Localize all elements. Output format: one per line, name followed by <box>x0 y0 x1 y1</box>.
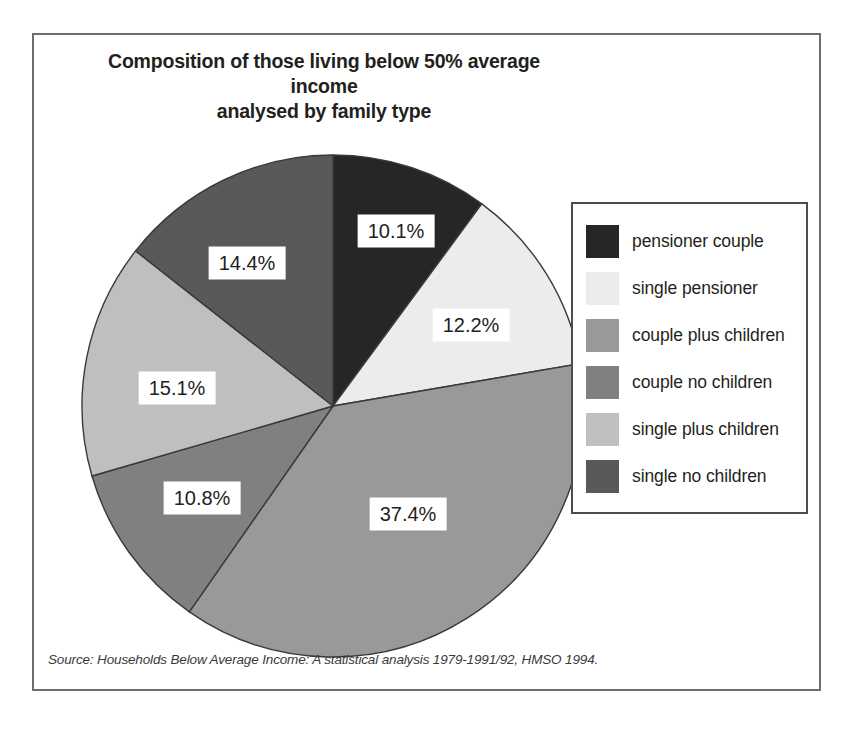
pie-slice-group <box>82 155 584 657</box>
legend-rows: pensioner couplesingle pensionercouple p… <box>586 218 796 500</box>
pie-slice-label: 15.1% <box>139 372 216 405</box>
pie-slice-label: 10.1% <box>358 215 435 248</box>
legend-color-swatch <box>586 225 619 258</box>
legend-color-swatch <box>586 366 619 399</box>
pie-slice-label: 10.8% <box>164 482 241 515</box>
chart-figure-frame: Composition of those living below 50% av… <box>32 33 821 691</box>
legend-item[interactable]: single pensioner <box>586 265 796 312</box>
pie-slice-label: 12.2% <box>433 309 510 342</box>
pie-slice-label: 37.4% <box>370 498 447 531</box>
legend-item[interactable]: couple no children <box>586 359 796 406</box>
legend-item[interactable]: single plus children <box>586 406 796 453</box>
legend-item-label: couple plus children <box>632 325 785 346</box>
legend-color-swatch <box>586 413 619 446</box>
pie-slice-label: 14.4% <box>209 247 286 280</box>
legend-item-label: single plus children <box>632 419 779 440</box>
legend-color-swatch <box>586 272 619 305</box>
source-note: Source: Households Below Average Income:… <box>48 652 598 667</box>
legend-item-label: single no children <box>632 466 766 487</box>
chart-legend: pensioner couplesingle pensionercouple p… <box>571 202 808 514</box>
legend-item-label: single pensioner <box>632 278 758 299</box>
legend-item[interactable]: pensioner couple <box>586 218 796 265</box>
legend-color-swatch <box>586 319 619 352</box>
legend-item[interactable]: couple plus children <box>586 312 796 359</box>
legend-color-swatch <box>586 460 619 493</box>
legend-item-label: couple no children <box>632 372 772 393</box>
legend-item-label: pensioner couple <box>632 231 764 252</box>
legend-item[interactable]: single no children <box>586 453 796 500</box>
